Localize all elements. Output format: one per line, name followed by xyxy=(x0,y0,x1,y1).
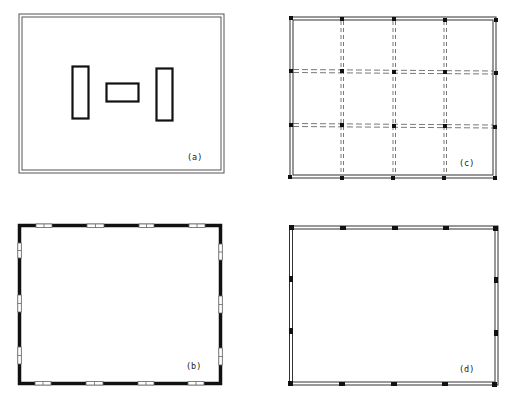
panel-b-label: (b) xyxy=(186,361,201,371)
panel-d: (d) xyxy=(288,225,498,387)
column xyxy=(340,69,344,73)
panel-b: (b) xyxy=(18,224,223,385)
pillar xyxy=(339,382,345,386)
figure-canvas: (a) (b) xyxy=(0,0,512,396)
column xyxy=(289,123,293,127)
panel-d-outer-wall xyxy=(290,226,499,385)
pillar xyxy=(391,382,397,386)
pillar xyxy=(289,225,294,230)
pillar xyxy=(289,276,293,282)
panel-d-pillars xyxy=(288,225,498,387)
column xyxy=(442,176,446,180)
pillar xyxy=(289,328,293,334)
panel-a: (a) xyxy=(19,14,224,173)
column xyxy=(289,69,293,73)
panel-a-element-center xyxy=(107,84,139,102)
column xyxy=(392,70,396,74)
panel-a-element-left xyxy=(73,67,89,119)
pillar xyxy=(493,226,498,231)
panel-c-label: (c) xyxy=(459,158,474,168)
column xyxy=(494,18,498,22)
column xyxy=(391,176,395,180)
column xyxy=(494,71,498,75)
column xyxy=(288,175,292,179)
pillar xyxy=(442,382,448,386)
column xyxy=(493,176,497,180)
pillar xyxy=(443,226,449,230)
panel-c: (c) xyxy=(288,16,498,180)
pillar xyxy=(288,381,293,386)
column xyxy=(340,17,344,21)
column xyxy=(392,17,396,21)
panel-a-label: (a) xyxy=(187,152,202,162)
panel-d-inner-wall xyxy=(293,229,496,382)
pillar xyxy=(494,277,498,283)
panel-a-element-right xyxy=(157,69,173,121)
pillar xyxy=(494,330,498,336)
column xyxy=(340,176,344,180)
column xyxy=(493,125,497,129)
column xyxy=(340,123,344,127)
column xyxy=(443,18,447,22)
pillar xyxy=(492,382,497,387)
column xyxy=(289,16,293,20)
panel-d-label: (d) xyxy=(459,364,474,374)
pillar xyxy=(392,226,398,230)
pillar xyxy=(340,226,346,230)
column xyxy=(392,124,396,128)
panel-a-outer-wall xyxy=(19,14,224,173)
column xyxy=(443,124,447,128)
column xyxy=(443,70,447,74)
panel-c-vertical-beams xyxy=(341,21,447,175)
panel-c-outer-wall xyxy=(290,17,496,178)
panel-b-wall xyxy=(20,226,221,384)
panel-a-inner-wall xyxy=(22,17,221,170)
